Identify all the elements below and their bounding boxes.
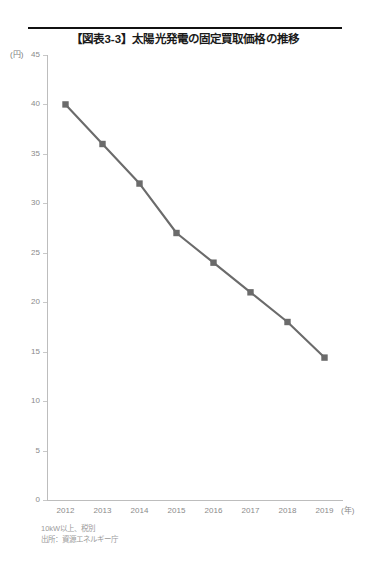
data-point-marker <box>284 319 290 325</box>
data-point-marker <box>99 141 105 147</box>
data-point-marker <box>247 289 253 295</box>
figure-container: 【図表3-3】太陽光発電の固定買取価格の推移 (円) 0510152025303… <box>0 0 370 572</box>
note-source: 出所：資源エネルギー庁 <box>41 534 118 545</box>
data-series-line <box>0 0 370 572</box>
data-point-marker <box>136 180 142 186</box>
note-condition: 10kW以上、税別 <box>41 523 95 534</box>
data-point-marker <box>210 259 216 265</box>
data-point-marker <box>321 354 327 360</box>
x-axis-unit-label: (年) <box>341 506 354 515</box>
chart-plot-area: (円) 051015202530354045 20122013201420152… <box>0 0 370 572</box>
data-point-marker <box>62 101 68 107</box>
data-point-marker <box>173 230 179 236</box>
